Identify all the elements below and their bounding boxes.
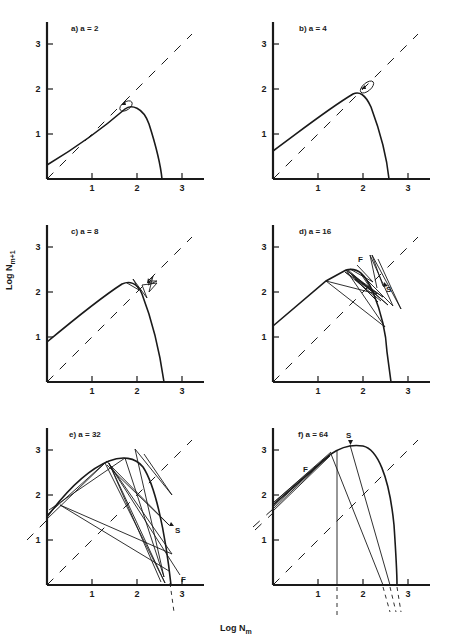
trajectory bbox=[273, 456, 330, 511]
trajectory bbox=[350, 445, 390, 585]
arrow-icon bbox=[348, 440, 353, 445]
y-tick-label: 2 bbox=[261, 490, 266, 500]
trajectory bbox=[273, 454, 331, 509]
x-tick-label: 2 bbox=[360, 589, 365, 599]
x-tick-label: 2 bbox=[134, 183, 139, 193]
y-tick-label: 1 bbox=[261, 129, 266, 139]
panel-e: 1 2 3 1 2 3 S F e) a = 32 bbox=[27, 428, 204, 612]
y-tick-label: 2 bbox=[35, 84, 40, 94]
trajectory-loop bbox=[118, 99, 134, 114]
x-tick-label: 1 bbox=[315, 589, 320, 599]
y-tick-label: 2 bbox=[35, 490, 40, 500]
y-tick-label: 1 bbox=[35, 129, 40, 139]
y-tick-label: 2 bbox=[35, 287, 40, 297]
recruitment-curve bbox=[273, 445, 397, 585]
x-tick-label: 3 bbox=[179, 589, 184, 599]
trajectory bbox=[273, 452, 331, 507]
end-marker-S: S bbox=[386, 285, 392, 294]
y-tick-label: 1 bbox=[261, 332, 266, 342]
y-tick-label: 3 bbox=[35, 242, 40, 252]
x-tick-label: 3 bbox=[405, 183, 410, 193]
replacement-line bbox=[47, 237, 192, 382]
y-tick-label: 2 bbox=[261, 84, 266, 94]
panel-title: d) a = 16 bbox=[299, 227, 332, 236]
replacement-line bbox=[47, 34, 192, 179]
x-axis-title-subscript: m bbox=[246, 628, 252, 635]
panel-title: a) a = 2 bbox=[71, 24, 99, 33]
trajectory-extension bbox=[383, 587, 390, 612]
x-axis-title-main: Log N bbox=[220, 623, 246, 633]
trajectory bbox=[107, 464, 180, 575]
trajectory bbox=[47, 461, 172, 571]
trajectory-loop bbox=[358, 79, 375, 95]
panel-c: 1 2 3 1 2 3 c) a = 8 bbox=[35, 225, 204, 396]
x-tick-label: 3 bbox=[405, 589, 410, 599]
trajectory bbox=[47, 463, 165, 583]
x-tick-label: 3 bbox=[179, 183, 184, 193]
y-tick-label: 3 bbox=[261, 445, 266, 455]
x-tick-label: 1 bbox=[89, 589, 94, 599]
x-tick-label: 3 bbox=[405, 386, 410, 396]
end-marker-S: S bbox=[175, 526, 181, 535]
y-tick-label: 3 bbox=[261, 39, 266, 49]
y-tick-label: 3 bbox=[35, 39, 40, 49]
figure-canvas: 1 2 3 1 2 3 a) a = 2 1 2 3 1 2 3 b) a = … bbox=[0, 0, 450, 642]
replacement-line bbox=[273, 237, 418, 382]
y-tick-label: 1 bbox=[261, 535, 266, 545]
panel-f: 1 2 3 1 2 3 S F f) a = 64 bbox=[253, 428, 430, 615]
start-marker-S: S bbox=[346, 431, 352, 440]
start-marker-F: F bbox=[358, 255, 363, 264]
panel-title: f) a = 64 bbox=[298, 430, 329, 439]
replacement-line bbox=[273, 34, 418, 179]
y-axis-title-subscript: m+1 bbox=[9, 250, 16, 264]
panel-b: 1 2 3 1 2 3 b) a = 4 bbox=[261, 22, 430, 193]
trajectory-extension bbox=[390, 587, 396, 612]
panel-title: c) a = 8 bbox=[71, 227, 99, 236]
x-tick-label: 1 bbox=[315, 386, 320, 396]
panel-title: b) a = 4 bbox=[299, 24, 327, 33]
y-tick-label: 1 bbox=[35, 535, 40, 545]
x-tick-label: 1 bbox=[89, 183, 94, 193]
x-tick-label: 2 bbox=[360, 386, 365, 396]
panel-d: 1 2 3 1 2 3 F S d) a = 16 bbox=[261, 225, 430, 396]
y-tick-label: 2 bbox=[261, 287, 266, 297]
recruitment-curve bbox=[273, 93, 389, 179]
x-tick-label: 3 bbox=[179, 386, 184, 396]
x-tick-label: 2 bbox=[134, 589, 139, 599]
x-axis-title: Log Nm bbox=[220, 623, 252, 635]
start-marker-F: F bbox=[181, 575, 186, 584]
arrow-icon bbox=[169, 522, 174, 526]
panel-title: e) a = 32 bbox=[69, 430, 101, 439]
x-tick-label: 2 bbox=[134, 386, 139, 396]
panel-a: 1 2 3 1 2 3 a) a = 2 bbox=[35, 22, 204, 193]
y-tick-label: 3 bbox=[261, 242, 266, 252]
curve-extension bbox=[170, 583, 174, 612]
y-tick-label: 3 bbox=[35, 445, 40, 455]
y-tick-label: 1 bbox=[35, 332, 40, 342]
y-axis-title: Log Nm+1 bbox=[4, 250, 16, 290]
x-tick-label: 1 bbox=[89, 386, 94, 396]
end-marker-F: F bbox=[303, 465, 308, 474]
curve-extension bbox=[397, 587, 401, 612]
x-tick-label: 1 bbox=[315, 183, 320, 193]
recruitment-curve bbox=[47, 107, 162, 179]
x-tick-label: 2 bbox=[360, 183, 365, 193]
y-axis-title-main: Log N bbox=[4, 265, 14, 291]
